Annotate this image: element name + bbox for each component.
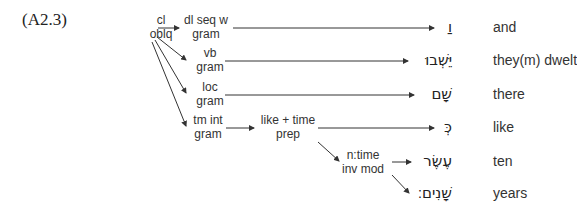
hebrew-word: כְּ bbox=[400, 118, 452, 136]
hebrew-word: שָׁנִים׃ bbox=[400, 184, 452, 202]
gloss: like bbox=[493, 119, 514, 135]
gloss: they(m) dwelt bbox=[493, 52, 577, 68]
gloss: and bbox=[493, 19, 516, 35]
gloss: ten bbox=[493, 153, 512, 169]
gloss: there bbox=[493, 86, 525, 102]
gloss: years bbox=[493, 185, 527, 201]
hebrew-word: עֶשֶׂר bbox=[400, 152, 452, 170]
hebrew-word: שָׁם bbox=[400, 85, 452, 103]
hebrew-word: וַ bbox=[400, 18, 452, 36]
hebrew-word: יֵּשְׁבוּ bbox=[400, 51, 452, 69]
